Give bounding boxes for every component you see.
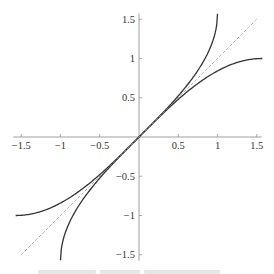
axes: [13, 13, 261, 260]
y-tick-label: 1.5: [122, 14, 135, 25]
x-tick-label: −1.5: [12, 140, 31, 151]
x-tick-label: −0.5: [90, 140, 109, 151]
x-tick-label: 0.5: [172, 140, 185, 151]
y-tick-label: 0.5: [122, 92, 135, 103]
figure-caption: [38, 262, 228, 268]
x-tick-label: 1: [215, 140, 220, 151]
chart-plot: −1.5−1−0.50.511.51.510.5−0.5−1−1.5: [0, 0, 274, 274]
y-tick-label: −1: [124, 210, 135, 221]
x-tick-label: 1.5: [250, 140, 263, 151]
y-tick-label: −0.5: [116, 171, 135, 182]
x-tick-label: −1: [55, 140, 66, 151]
y-tick-label: −1.5: [116, 249, 135, 260]
y-tick-label: 1: [130, 53, 135, 64]
